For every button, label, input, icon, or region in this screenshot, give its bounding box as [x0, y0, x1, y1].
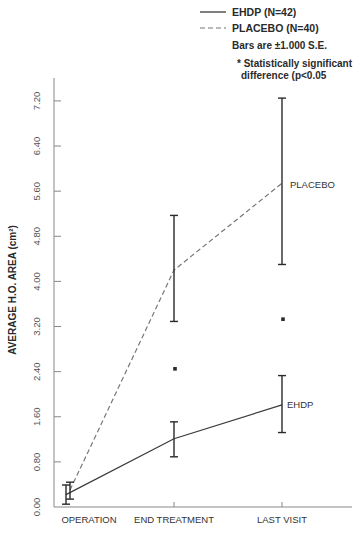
- legend-ehdp-label: EHDP (N=42): [232, 6, 296, 18]
- y-axis-title: AVERAGE H.O. AREA (cm²): [7, 225, 18, 355]
- error-bar-ehdp: [278, 376, 286, 433]
- error-bar-placebo: [278, 98, 286, 264]
- significance-asterisk: [281, 317, 285, 321]
- y-tick-label: 4.00: [31, 272, 42, 291]
- x-category-label: END TREATMENT: [134, 514, 214, 525]
- y-tick-label: 0.00: [31, 498, 42, 517]
- y-tick-label: 7.20: [31, 92, 42, 111]
- series-label-ehdp: EHDP: [287, 399, 313, 410]
- legend-placebo-label: PLACEBO (N=40): [232, 22, 319, 34]
- legend-bars-note: Bars are ±1.000 S.E.: [232, 40, 327, 51]
- series-layer: [62, 98, 286, 504]
- legend-sig-note-line2: difference (p<0.05: [241, 70, 327, 81]
- x-axis-ticks: OPERATIONEND TREATMENTLAST VISIT: [61, 502, 307, 525]
- error-bar-ehdp: [62, 485, 70, 504]
- series-line-placebo: [70, 183, 282, 490]
- y-tick-label: 3.20: [31, 317, 42, 336]
- y-axis-ticks: 0.000.801.602.403.204.004.805.606.407.20: [31, 92, 61, 517]
- legend-sig-note-line1: * Statistically significant: [237, 58, 353, 69]
- x-category-label: LAST VISIT: [257, 514, 307, 525]
- y-tick-label: 5.60: [31, 182, 42, 201]
- axes: [54, 78, 352, 507]
- y-tick-label: 1.60: [31, 408, 42, 427]
- error-bar-ehdp: [170, 422, 178, 457]
- error-bar-placebo: [170, 215, 178, 321]
- y-tick-label: 4.80: [31, 227, 42, 246]
- significance-asterisk: [173, 367, 177, 371]
- significance-markers: [173, 317, 285, 370]
- series-label-placebo: PLACEBO: [290, 179, 335, 190]
- y-tick-label: 2.40: [31, 362, 42, 381]
- legend: EHDP (N=42) PLACEBO (N=40) Bars are ±1.0…: [200, 6, 353, 81]
- y-tick-label: 6.40: [31, 137, 42, 156]
- chart: EHDP (N=42) PLACEBO (N=40) Bars are ±1.0…: [0, 0, 362, 534]
- y-tick-label: 0.80: [31, 453, 42, 472]
- x-category-label: OPERATION: [61, 514, 116, 525]
